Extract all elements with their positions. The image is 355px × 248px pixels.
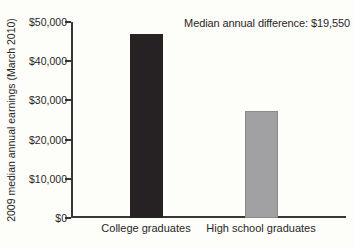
x-category-label: High school graduates [186, 221, 336, 235]
bar-high-school-graduates [245, 111, 278, 218]
y-tick-label: $0 [0, 212, 67, 224]
y-tick-label: $30,000 [0, 94, 67, 106]
y-tick-label: $20,000 [0, 134, 67, 146]
bar-chart-figure: 2009 median annual earnings (March 2010)… [0, 0, 355, 248]
chart-annotation: Median annual difference: $19,550 [184, 17, 350, 29]
y-tick-label: $40,000 [0, 55, 67, 67]
y-axis-title: 2009 median annual earnings (March 2010) [3, 0, 19, 240]
y-tick-label: $10,000 [0, 173, 67, 185]
bar-college-graduates [130, 34, 163, 218]
y-tick-label: $50,000 [0, 16, 67, 28]
x-axis-line [71, 216, 346, 218]
y-axis-line [71, 22, 73, 218]
